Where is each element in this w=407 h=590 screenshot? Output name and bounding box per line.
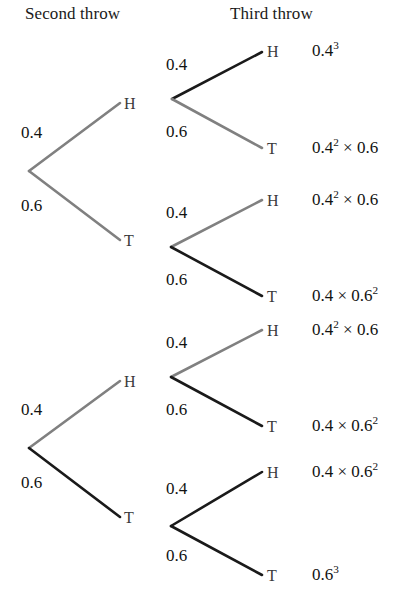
outcome-operator: × xyxy=(333,462,351,481)
prob-third-1-T: 0.6 xyxy=(166,122,187,142)
node-second-H-bottom: H xyxy=(124,373,136,391)
prob-third-1-H: 0.4 xyxy=(166,55,187,75)
prob-second-T-top: 0.6 xyxy=(21,196,42,216)
outcome-base-1: 0.4 xyxy=(312,416,333,435)
tree-branch-root-to-T xyxy=(29,171,120,240)
node-third-4-H: H xyxy=(267,464,279,482)
outcome-base-2: 0.6 xyxy=(351,416,372,435)
prob-second-H-bottom: 0.4 xyxy=(21,400,42,420)
node-second-T-bottom: T xyxy=(124,509,134,527)
outcome-exponent-1: 3 xyxy=(333,39,339,51)
outcome-base-2: 0.6 xyxy=(357,138,378,157)
outcome-exponent-1: 3 xyxy=(333,563,339,575)
outcome-exponent-2: 2 xyxy=(373,414,379,426)
outcome-base-2: 0.6 xyxy=(357,320,378,339)
outcome-HHH: 0.43 xyxy=(312,41,339,61)
outcome-THT: 0.4 × 0.62 xyxy=(312,416,378,436)
probability-tree-diagram: Second throwThird throw 0.40.60.40.60.40… xyxy=(0,0,407,590)
outcome-base-2: 0.6 xyxy=(357,190,378,209)
outcome-operator: × xyxy=(339,320,357,339)
tree-branch-root-to-H xyxy=(29,103,120,171)
outcome-base-1: 0.4 xyxy=(312,41,333,60)
outcome-operator: × xyxy=(333,416,351,435)
node-second-T-top: T xyxy=(124,232,134,250)
prob-third-2-H: 0.4 xyxy=(166,203,187,223)
outcome-base-1: 0.4 xyxy=(312,190,333,209)
node-third-3-T: T xyxy=(267,418,277,436)
prob-third-3-T: 0.6 xyxy=(166,400,187,420)
node-third-2-T: T xyxy=(267,288,277,306)
branch-group xyxy=(29,52,262,575)
node-second-H-top: H xyxy=(124,95,136,113)
outcome-base-1: 0.4 xyxy=(312,320,333,339)
prob-second-H-top: 0.4 xyxy=(21,123,42,143)
prob-third-4-T: 0.6 xyxy=(166,546,187,566)
node-third-1-H: H xyxy=(267,43,279,61)
outcome-operator: × xyxy=(339,190,357,209)
column-header-2: Third throw xyxy=(230,4,313,24)
outcome-base-1: 0.4 xyxy=(312,138,333,157)
tree-branch-root2-to-H xyxy=(29,381,120,448)
tree-branch-root2-to-T xyxy=(29,448,120,517)
outcome-THH: 0.42 × 0.6 xyxy=(312,320,378,340)
outcome-HTT: 0.4 × 0.62 xyxy=(312,286,378,306)
outcome-operator: × xyxy=(339,138,357,157)
prob-third-4-H: 0.4 xyxy=(166,479,187,499)
outcome-exponent-2: 2 xyxy=(373,284,379,296)
node-third-3-H: H xyxy=(267,322,279,340)
outcome-TTH: 0.4 × 0.62 xyxy=(312,462,378,482)
outcome-base-1: 0.4 xyxy=(312,462,333,481)
node-third-1-T: T xyxy=(267,140,277,158)
outcome-base-1: 0.4 xyxy=(312,286,333,305)
node-third-2-H: H xyxy=(267,192,279,210)
prob-third-2-T: 0.6 xyxy=(166,270,187,290)
prob-third-3-H: 0.4 xyxy=(166,333,187,353)
node-third-4-T: T xyxy=(267,567,277,585)
outcome-base-1: 0.6 xyxy=(312,565,333,584)
outcome-HHT: 0.42 × 0.6 xyxy=(312,138,378,158)
prob-second-T-bottom: 0.6 xyxy=(21,473,42,493)
outcome-HTH: 0.42 × 0.6 xyxy=(312,190,378,210)
outcome-exponent-2: 2 xyxy=(373,460,379,472)
outcome-base-2: 0.6 xyxy=(351,462,372,481)
column-header-1: Second throw xyxy=(25,4,120,24)
outcome-base-2: 0.6 xyxy=(351,286,372,305)
outcome-operator: × xyxy=(333,286,351,305)
outcome-TTT: 0.63 xyxy=(312,565,339,585)
